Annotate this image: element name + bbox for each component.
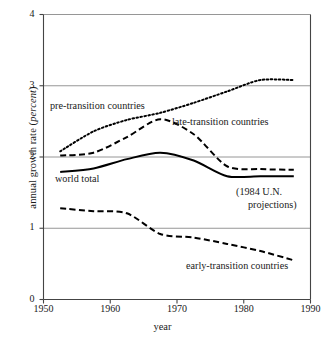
pre-transition-label: pre-transition countries <box>50 100 145 112</box>
y-tick-label-2: 2 <box>19 150 35 161</box>
x-tick-label-1950: 1950 <box>24 303 64 314</box>
chart-figure: annual growth rate (percent) year 01234 … <box>0 0 325 339</box>
projection-note-line2: projections) <box>236 199 297 212</box>
projection-note: (1984 U.N.projections) <box>236 186 297 211</box>
projection-note-line1: (1984 U.N. <box>236 186 282 197</box>
y-axis-label-italic: percent <box>27 90 38 122</box>
y-tick-label-4: 4 <box>19 8 35 19</box>
early-transition-label: early-transition countries <box>186 260 288 272</box>
x-tick-label-1960: 1960 <box>90 303 130 314</box>
y-tick-label-0: 0 <box>19 293 35 304</box>
y-axis-label-text: annual growth rate ( <box>27 122 38 209</box>
x-axis-label: year <box>0 321 325 332</box>
world-total-label: world total <box>55 173 99 185</box>
y-tick-label-1: 1 <box>19 221 35 232</box>
y-tick-label-3: 3 <box>19 79 35 90</box>
x-tick-label-1970: 1970 <box>157 303 197 314</box>
series-line-early-transition-countries <box>60 208 294 260</box>
late-transition-label: late-transition countries <box>172 116 268 128</box>
chart-plot-svg <box>0 0 325 339</box>
x-tick-label-1980: 1980 <box>224 303 264 314</box>
x-tick-label-1990: 1990 <box>291 303 325 314</box>
